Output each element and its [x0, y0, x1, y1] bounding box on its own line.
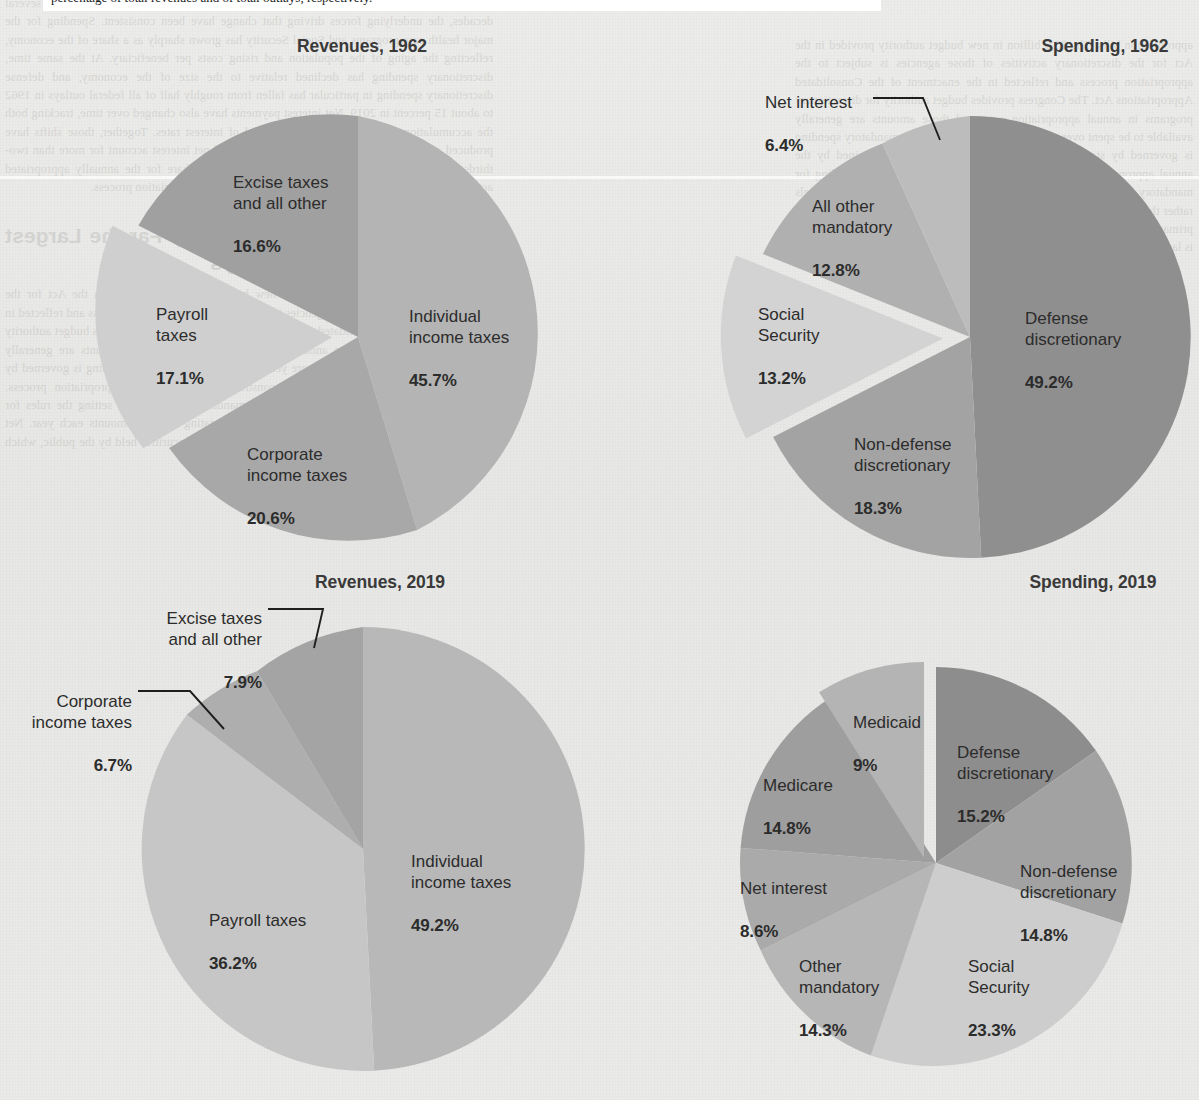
pie-label-value: 13.2%: [758, 369, 806, 388]
pie-label-value: 7.9%: [224, 673, 262, 692]
pie-label-value: 12.8%: [812, 261, 860, 280]
pie-label-value: 16.6%: [233, 237, 281, 256]
pie-label-value: 9%: [853, 756, 877, 775]
pie-label-value: 14.8%: [763, 819, 811, 838]
pie-label-text: Excise taxes and all other: [167, 609, 262, 650]
pie-label-text: Payroll taxes: [156, 305, 208, 346]
pie-label-value: 36.2%: [209, 954, 257, 973]
pie-label-text: Net interest: [740, 879, 827, 898]
pie-label-medicaid: Medicaid 9%: [853, 690, 921, 776]
chart-panel-revenues-1962: Revenues, 1962 Individual income taxes 4…: [0, 24, 600, 569]
pie-label-value: 6.4%: [765, 136, 803, 155]
pie-label-net-interest: Net interest 6.4%: [765, 70, 852, 156]
pie-label-defense-discretionary: Defense discretionary 15.2%: [957, 720, 1053, 828]
pie-label-value: 49.2%: [1025, 373, 1073, 392]
pie-label-value: 18.3%: [854, 499, 902, 518]
pie-label-value: 17.1%: [156, 369, 204, 388]
pie-label-non-defense-discretionary: Non-defense discretionary 14.8%: [1020, 839, 1117, 947]
pie-label-corporate-income-taxes: Corporate income taxes 6.7%: [0, 669, 132, 777]
pie-label-text: Medicaid: [853, 713, 921, 732]
pie-label-value: 6.7%: [94, 756, 132, 775]
pie-label-value: 14.3%: [799, 1021, 847, 1040]
pie-label-payroll-taxes: Payroll taxes 17.1%: [156, 282, 208, 390]
pie-label-text: Medicare: [763, 776, 833, 795]
pie-label-text: Defense discretionary: [957, 743, 1053, 784]
pie-label-medicare: Medicare 14.8%: [763, 753, 833, 839]
pie-label-text: Excise taxes and all other: [233, 173, 328, 214]
chart-panel-revenues-2019: Revenues, 2019 Excise taxes and all othe…: [0, 566, 600, 1100]
pie-label-text: Non-defense discretionary: [854, 435, 951, 476]
pie-label-text: Corporate income taxes: [247, 445, 347, 486]
pie-label-text: Non-defense discretionary: [1020, 862, 1117, 903]
pie-label-individual-income-taxes: Individual income taxes 45.7%: [409, 284, 509, 392]
pie-label-text: Corporate income taxes: [32, 692, 132, 733]
pie-label-text: All other mandatory: [812, 197, 892, 238]
pie-label-value: 8.6%: [740, 922, 778, 941]
pie-label-other-mandatory: Other mandatory 14.3%: [799, 934, 879, 1042]
pie-label-payroll-taxes: Payroll taxes 36.2%: [209, 888, 306, 974]
pie-label-text: Individual income taxes: [411, 852, 511, 893]
pie-label-individual-income-taxes: Individual income taxes 49.2%: [411, 829, 511, 937]
pie-label-defense-discretionary: Defense discretionary 49.2%: [1025, 286, 1121, 394]
pie-label-all-other-mandatory: All other mandatory 12.8%: [812, 174, 892, 282]
pie-label-value: 23.3%: [968, 1021, 1016, 1040]
pie-label-text: Defense discretionary: [1025, 309, 1121, 350]
pie-label-value: 49.2%: [411, 916, 459, 935]
pie-label-text: Individual income taxes: [409, 307, 509, 348]
pie-label-value: 45.7%: [409, 371, 457, 390]
pie-label-excise-taxes-and-all-other: Excise taxes and all other 16.6%: [233, 150, 328, 258]
pie-label-non-defense-discretionary: Non-defense discretionary 18.3%: [854, 412, 951, 520]
pie-spending-2019: [600, 566, 1199, 1100]
pie-label-corporate-income-taxes: Corporate income taxes 20.6%: [247, 422, 347, 530]
chart-panel-spending-2019: Spending, 2019 Medicaid 9% Defense d: [600, 566, 1199, 1100]
pie-chart-grid: Revenues, 1962 Individual income taxes 4…: [0, 0, 1199, 1100]
pie-label-text: Other mandatory: [799, 957, 879, 998]
pie-label-value: 20.6%: [247, 509, 295, 528]
pie-label-social-security: Social Security 13.2%: [758, 282, 819, 390]
pie-label-text: Social Security: [968, 957, 1029, 998]
chart-panel-spending-1962: Spending, 1962 Net interest 6.4% All oth…: [600, 24, 1199, 569]
pie-label-text: Payroll taxes: [209, 911, 306, 930]
pie-label-text: Net interest: [765, 93, 852, 112]
pie-label-social-security: Social Security 23.3%: [968, 934, 1029, 1042]
leader-line-excise-taxes: [268, 609, 323, 648]
pie-label-net-interest: Net interest 8.6%: [740, 856, 827, 942]
pie-label-value: 15.2%: [957, 807, 1005, 826]
pie-label-text: Social Security: [758, 305, 819, 346]
